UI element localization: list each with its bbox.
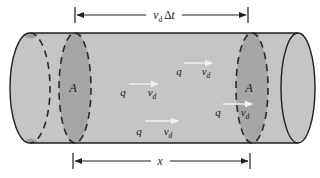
- cross-section-label-left: A: [68, 81, 77, 95]
- bottom-dimension-label: x: [156, 155, 163, 167]
- charge-label: q: [136, 125, 142, 137]
- cross-section-label-right: A: [244, 81, 253, 95]
- cylinder-body: [10, 33, 315, 143]
- charge-label: q: [176, 65, 182, 77]
- top-dimension: vdΔt: [75, 7, 248, 24]
- physics-figure-drift-velocity: A A q vd q vd q vd q vd vd: [0, 0, 320, 178]
- charge-label: q: [120, 86, 126, 98]
- top-dimension-label: vdΔt: [153, 9, 175, 24]
- charge-label: q: [215, 106, 221, 118]
- drift-velocity-diagram: A A q vd q vd q vd q vd vd: [0, 0, 320, 178]
- bottom-dimension: x: [73, 153, 250, 169]
